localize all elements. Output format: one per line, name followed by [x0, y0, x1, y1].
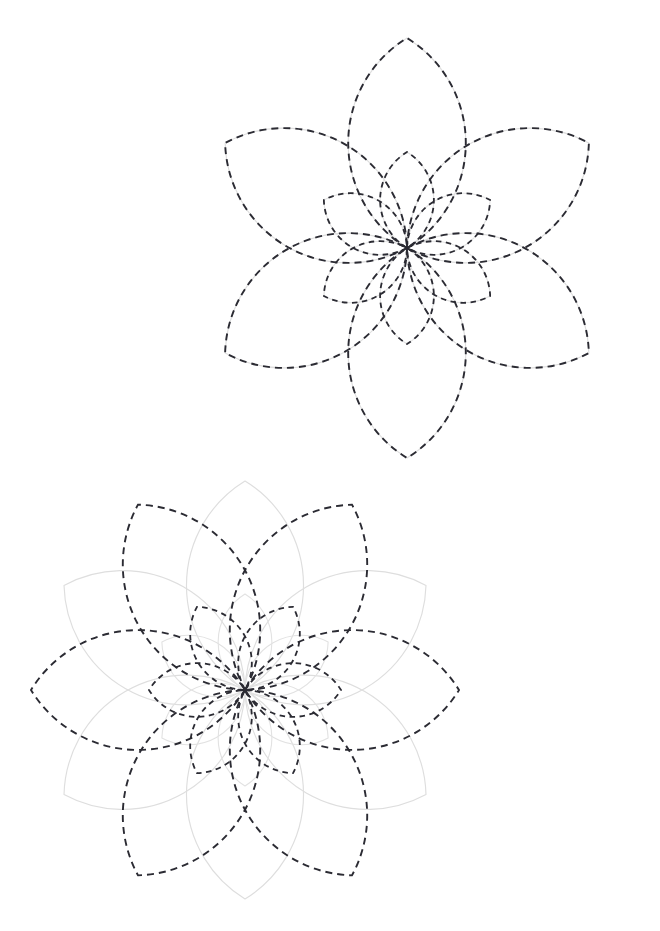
rosette-figures-svg [0, 0, 660, 931]
page-background [0, 0, 660, 931]
figure-page [0, 0, 660, 931]
